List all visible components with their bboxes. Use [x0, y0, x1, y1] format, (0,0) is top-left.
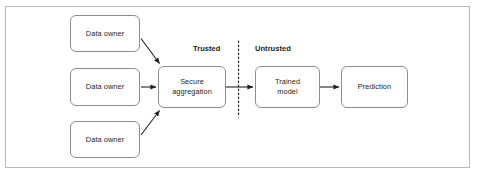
- edge-data-owner-3-to-secure-aggregation: [141, 111, 160, 136]
- node-prediction-label: Prediction: [356, 82, 393, 92]
- node-data-owner-2: Data owner: [70, 68, 140, 106]
- zone-label-untrusted: Untrusted: [255, 44, 291, 53]
- node-trained-model: Trained model: [255, 66, 320, 108]
- node-secure-aggregation: Secure aggregation: [158, 66, 226, 108]
- node-secure-aggregation-label: Secure aggregation: [170, 77, 214, 96]
- node-data-owner-1-label: Data owner: [84, 29, 126, 39]
- node-data-owner-3-label: Data owner: [84, 135, 126, 145]
- diagram-canvas: Data owner Data owner Data owner Secure …: [0, 0, 478, 176]
- node-data-owner-1: Data owner: [70, 15, 140, 52]
- node-prediction: Prediction: [341, 66, 408, 108]
- edge-data-owner-1-to-secure-aggregation: [141, 39, 160, 64]
- node-trained-model-label: Trained model: [273, 77, 302, 96]
- zone-label-trusted: Trusted: [193, 44, 220, 53]
- node-data-owner-2-label: Data owner: [84, 82, 126, 92]
- node-data-owner-3: Data owner: [70, 121, 140, 158]
